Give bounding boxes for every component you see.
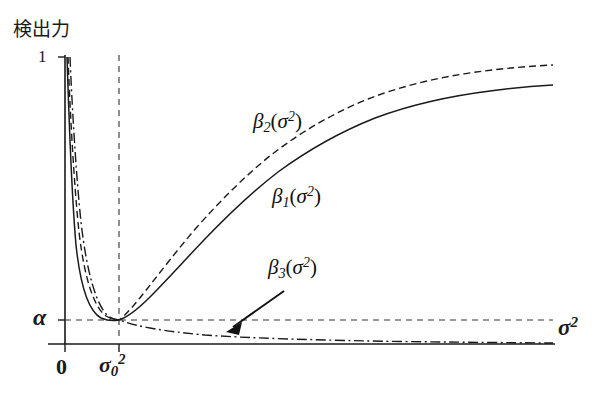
y-axis-tick-label-one: 1 xyxy=(38,48,47,65)
x-axis-title-base: σ xyxy=(558,315,570,340)
y-axis-tick-label-alpha: α xyxy=(33,305,46,329)
sigma0-base: σ xyxy=(99,352,111,377)
beta3-base: β xyxy=(268,255,278,279)
sigma0-superscript: 2 xyxy=(118,351,125,367)
y-axis-title: 検出力 xyxy=(13,20,70,39)
curve-label-beta3: β3(σ2) xyxy=(268,256,317,280)
beta1-arg-superscript: 2 xyxy=(307,184,314,199)
beta2-paren-open: ( xyxy=(271,109,278,133)
curve-label-beta1: β1(σ2) xyxy=(272,185,321,209)
beta1-paren-open: ( xyxy=(290,184,297,208)
curve-label-beta2: β2(σ2) xyxy=(253,110,302,134)
beta1-subscript: 1 xyxy=(282,194,289,210)
beta3-paren-close: ) xyxy=(310,255,317,279)
x-axis-tick-label-sigma0: σ02 xyxy=(99,352,126,379)
beta2-subscript: 2 xyxy=(263,119,270,135)
x-axis-title: σ2 xyxy=(558,314,578,339)
beta3-annotation-arrow xyxy=(226,291,284,335)
beta1-arg-base: σ xyxy=(297,184,307,208)
beta1-paren-close: ) xyxy=(314,184,321,208)
beta3-subscript: 3 xyxy=(278,265,285,281)
beta3-arg-base: σ xyxy=(293,255,303,279)
beta3-arg-superscript: 2 xyxy=(303,255,310,270)
beta1-base: β xyxy=(272,184,282,208)
beta2-arg-base: σ xyxy=(278,109,288,133)
power-function-figure: 検出力 1 α 0 σ02 σ2 β2(σ2) β1(σ2) β3(σ2) xyxy=(0,0,607,407)
x-axis-tick-label-origin: 0 xyxy=(56,356,67,378)
beta2-arg-superscript: 2 xyxy=(288,109,295,124)
beta2-paren-close: ) xyxy=(295,109,302,133)
x-axis-title-superscript: 2 xyxy=(570,313,578,330)
beta3-paren-open: ( xyxy=(286,255,293,279)
beta2-base: β xyxy=(253,109,263,133)
